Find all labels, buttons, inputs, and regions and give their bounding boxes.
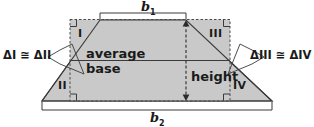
base-label: base [86,62,121,75]
region-label-iii: III [209,28,222,39]
region-label-i: I [78,28,83,39]
left-relation-label: ΔI ≅ ΔII [3,50,51,62]
height-label: height [191,70,238,83]
right-relation-label: ΔIII ≅ ΔIV [250,50,311,62]
b2-bracket [42,102,272,110]
region-label-iv: IV [233,80,246,91]
b2-label: b2 [150,111,165,127]
b1-label: b1 [141,0,156,17]
diagram-canvas [0,0,314,127]
region-label-ii: II [58,80,67,91]
trapezoid-diagram: b1 b2 average base height I II III IV ΔI… [0,0,314,127]
average-label: average [86,47,145,60]
